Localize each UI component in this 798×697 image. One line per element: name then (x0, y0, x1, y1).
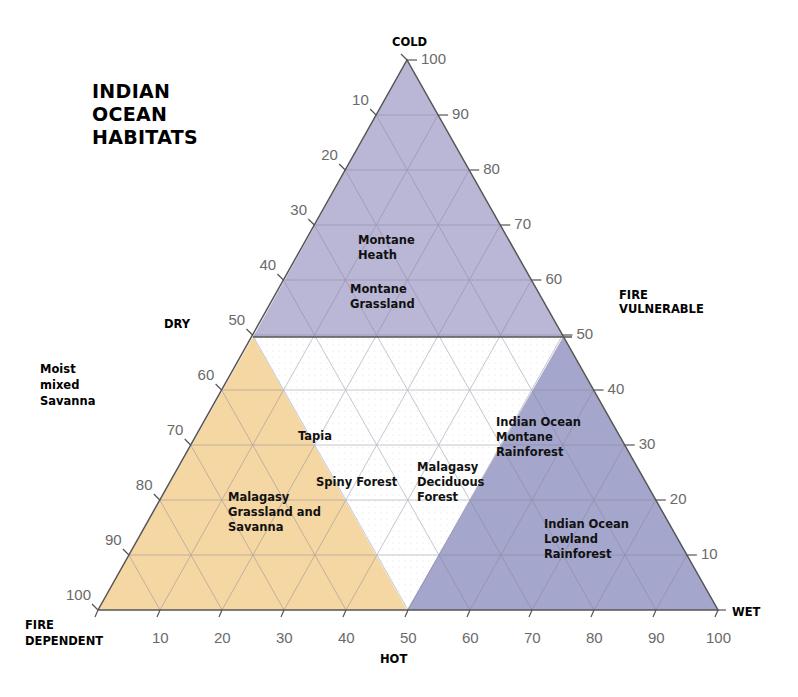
right-tick-label: 70 (514, 215, 531, 232)
region-spiny-forest: Spiny Forest (316, 475, 397, 490)
label-wet: WET (732, 605, 760, 619)
region-io-montane-rainforest: Indian Ocean Montane Rainforest (496, 415, 581, 460)
left-tick-label: 90 (105, 531, 122, 548)
left-tick-label: 40 (259, 256, 276, 273)
label-hot: HOT (380, 652, 407, 666)
right-tick-label: 80 (483, 160, 500, 177)
label-moist-mixed-savanna: Moist mixed Savanna (40, 361, 95, 409)
region-io-lowland-rainforest: Indian Ocean Lowland Rainforest (544, 517, 629, 562)
right-tick-label: 50 (577, 325, 594, 342)
bottom-tick-label: 60 (462, 629, 479, 646)
right-tick-label: 60 (545, 270, 562, 287)
region-malagasy-grassland-savanna: Malagasy Grassland and Savanna (228, 490, 321, 535)
bottom-tick-label: 30 (276, 629, 293, 646)
region-tapia: Tapia (298, 429, 332, 444)
bottom-tick-label: 50 (400, 629, 417, 646)
right-tick-label: 100 (421, 50, 446, 67)
label-fire-dependent: FIRE DEPENDENT (25, 617, 103, 649)
left-tick-label: 70 (167, 421, 184, 438)
right-tick-label: 20 (670, 490, 687, 507)
left-tick-label: 10 (352, 91, 369, 108)
right-tick-label: 30 (639, 435, 656, 452)
label-cold: COLD (392, 35, 427, 49)
left-tick-label: 100 (66, 586, 91, 603)
bottom-tick-label: 10 (152, 629, 169, 646)
label-dry: DRY (164, 317, 190, 331)
left-tick-label: 30 (290, 201, 307, 218)
right-tick-label: 10 (701, 545, 718, 562)
left-tick-label: 80 (136, 476, 153, 493)
left-tick-label: 50 (229, 311, 246, 328)
region-montane-grassland: Montane Grassland (350, 282, 415, 312)
left-tick-label: 60 (198, 366, 215, 383)
region-montane-heath: Montane Heath (358, 233, 415, 263)
bottom-tick-label: 100 (706, 629, 731, 646)
left-tick-label: 20 (321, 146, 338, 163)
label-fire-vulnerable: FIRE VULNERABLE (619, 288, 704, 316)
bottom-tick-label: 20 (214, 629, 231, 646)
bottom-tick-label: 70 (524, 629, 541, 646)
diagram-title: INDIAN OCEAN HABITATS (92, 80, 198, 149)
bottom-tick-label: 80 (586, 629, 603, 646)
bottom-tick-label: 40 (338, 629, 355, 646)
right-tick-label: 40 (608, 380, 625, 397)
bottom-tick-label: 90 (648, 629, 665, 646)
right-tick-label: 90 (452, 105, 469, 122)
region-malagasy-deciduous-forest: Malagasy Deciduous Forest (417, 460, 484, 505)
